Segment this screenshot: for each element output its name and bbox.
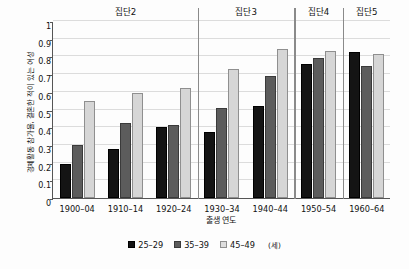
bar	[216, 108, 227, 198]
bar	[361, 66, 372, 198]
chart-legend: 25–2935–3945–49(세)	[0, 239, 409, 250]
bar-group	[53, 22, 101, 198]
legend-swatch-icon	[128, 241, 135, 248]
x-axis-title: 출생 연도	[52, 214, 390, 225]
bar	[72, 145, 83, 198]
gridline	[53, 20, 390, 21]
bar	[253, 106, 264, 198]
x-tick-label: 1900–04	[59, 204, 94, 214]
legend-label: 25–29	[138, 240, 163, 250]
bar	[313, 58, 324, 198]
bar-group	[198, 22, 246, 198]
legend-label: 45–49	[230, 240, 255, 250]
bar	[180, 88, 191, 198]
cohort-label: 집단3	[235, 5, 256, 17]
legend-swatch-icon	[220, 241, 227, 248]
bar	[60, 164, 71, 199]
bar	[277, 49, 288, 198]
bar	[349, 52, 360, 198]
bar-group	[101, 22, 149, 198]
bar	[156, 127, 167, 198]
legend-item[interactable]: 45–49	[220, 240, 255, 250]
y-tick-mark	[50, 199, 54, 200]
bar	[204, 132, 215, 198]
bar	[325, 51, 336, 198]
bar	[373, 54, 384, 198]
cohort-label: 집단2	[115, 5, 136, 17]
x-tick-label: 1950–54	[301, 204, 336, 214]
bar	[265, 76, 276, 198]
bar	[228, 69, 239, 198]
legend-item[interactable]: 25–29	[128, 240, 163, 250]
bar	[301, 64, 312, 198]
chart-figure: 경제활동 참가율, 결혼한 적이 있는 여성 00.10.20.30.40.50…	[0, 0, 409, 269]
bar	[108, 149, 119, 198]
bar	[168, 125, 179, 198]
legend-swatch-icon	[174, 241, 181, 248]
cohort-label: 집단5	[356, 5, 377, 17]
bar-group	[246, 22, 294, 198]
bar	[132, 93, 143, 198]
legend-label: 35–39	[184, 240, 209, 250]
x-tick-label: 1920–24	[156, 204, 191, 214]
legend-unit-label: (세)	[268, 239, 281, 250]
plot-area: 00.10.20.30.40.50.60.70.80.91 집단2집단3집단4집…	[52, 22, 390, 199]
x-tick-label: 1940–44	[253, 204, 288, 214]
x-tick-label: 1910–14	[108, 204, 143, 214]
bar-group	[343, 22, 391, 198]
x-tick-label: 1930–34	[204, 204, 239, 214]
bar-group	[150, 22, 198, 198]
bar-group	[294, 22, 342, 198]
legend-item[interactable]: 35–39	[174, 240, 209, 250]
bar	[84, 101, 95, 198]
bar	[120, 123, 131, 198]
x-tick-label: 1960–64	[349, 204, 384, 214]
cohort-label: 집단4	[308, 5, 329, 17]
y-axis-title: 경제활동 참가율, 결혼한 적이 있는 여성	[24, 23, 35, 203]
